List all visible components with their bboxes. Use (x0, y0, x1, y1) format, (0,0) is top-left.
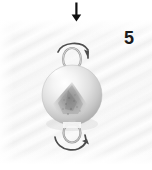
bottom-eyelet-loop (63, 120, 81, 143)
texture-fade-left (0, 19, 14, 164)
step-number: 5 (120, 28, 138, 48)
instruction-figure: 5 (0, 0, 152, 170)
bead-assembly (38, 38, 114, 160)
bead-body (42, 65, 102, 129)
arrow-down-icon (69, 2, 84, 22)
